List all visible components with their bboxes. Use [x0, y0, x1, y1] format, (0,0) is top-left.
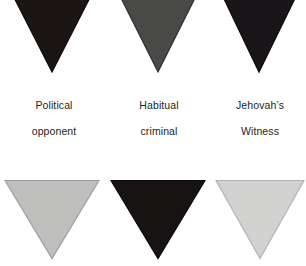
inverted-triangle-icon	[110, 0, 206, 74]
inverted-triangle-icon	[110, 179, 206, 260]
badge-jehovahs-witness	[213, 0, 306, 74]
badge-label-line-1: Political	[6, 99, 102, 112]
badge-label-line-2: criminal	[111, 125, 207, 138]
badge-figure: Political opponent Habitual criminal Jeh…	[0, 0, 306, 266]
badge-label-line-1: Habitual	[111, 99, 207, 112]
badge-label-jehovahs-witness: Jehovah’s Witness	[214, 86, 306, 151]
badge-label-line-2: opponent	[6, 125, 102, 138]
badge-label-line-2: Witness	[214, 125, 306, 138]
inverted-triangle-icon	[4, 179, 100, 260]
inverted-triangle-icon	[213, 0, 306, 74]
badge-row2-col3	[215, 179, 305, 260]
badge-label-political-opponent: Political opponent	[6, 86, 102, 151]
inverted-triangle-icon	[215, 179, 305, 260]
inverted-triangle-icon	[3, 0, 101, 74]
badge-political-opponent	[3, 0, 101, 74]
badge-label-line-1: Jehovah’s	[214, 99, 306, 112]
badge-label-habitual-criminal: Habitual criminal	[111, 86, 207, 151]
badge-row2-col2	[110, 179, 206, 260]
badge-habitual-criminal	[110, 0, 206, 74]
badge-row2-col1	[4, 179, 100, 260]
